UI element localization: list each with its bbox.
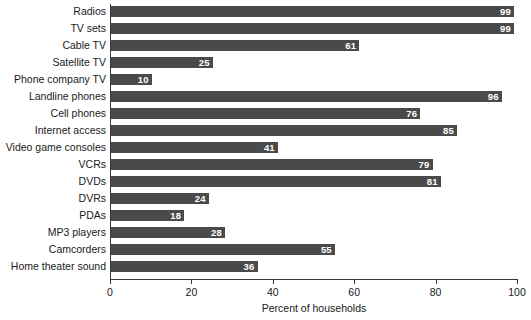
category-label: Landline phones xyxy=(0,89,106,103)
bar-value-label: 28 xyxy=(211,227,222,238)
category-label: Internet access xyxy=(0,123,106,137)
bar: 81 xyxy=(111,176,441,187)
category-label: Phone company TV xyxy=(0,72,106,86)
x-tick-label: 20 xyxy=(186,286,198,298)
bar-track: 36 xyxy=(111,261,518,272)
bar-value-label: 96 xyxy=(488,91,499,102)
bar-track: 79 xyxy=(111,159,518,170)
bar: 99 xyxy=(111,6,514,17)
bar-track: 24 xyxy=(111,193,518,204)
bar-track: 99 xyxy=(111,23,518,34)
bar-value-label: 85 xyxy=(443,125,454,136)
chart-row: VCRs79 xyxy=(0,159,531,170)
bar: 24 xyxy=(111,193,209,204)
bar-value-label: 99 xyxy=(500,23,511,34)
bar-value-label: 10 xyxy=(138,74,149,85)
x-tick-label: 60 xyxy=(348,286,360,298)
chart-row: Cell phones76 xyxy=(0,108,531,119)
bar-track: 28 xyxy=(111,227,518,238)
chart-row: DVDs81 xyxy=(0,176,531,187)
x-tick-label: 100 xyxy=(508,286,526,298)
bar-track: 81 xyxy=(111,176,518,187)
bar-value-label: 24 xyxy=(195,193,206,204)
bar: 61 xyxy=(111,40,359,51)
category-label: Cable TV xyxy=(0,38,106,52)
x-tick xyxy=(191,280,192,284)
bar-value-label: 76 xyxy=(406,108,417,119)
x-tick xyxy=(436,280,437,284)
bar-track: 41 xyxy=(111,142,518,153)
bar-track: 10 xyxy=(111,74,518,85)
y-axis-line xyxy=(110,4,111,280)
category-label: MP3 players xyxy=(0,225,106,239)
bar-value-label: 61 xyxy=(345,40,356,51)
bar: 41 xyxy=(111,142,278,153)
chart-row: Camcorders55 xyxy=(0,244,531,255)
bar-track: 76 xyxy=(111,108,518,119)
x-tick xyxy=(110,280,111,284)
bar-value-label: 18 xyxy=(170,210,181,221)
category-label: Cell phones xyxy=(0,106,106,120)
category-label: TV sets xyxy=(0,21,106,35)
bar-value-label: 25 xyxy=(199,57,210,68)
chart-row: Video game consoles41 xyxy=(0,142,531,153)
x-axis-line xyxy=(110,279,518,280)
bar-chart: Radios99TV sets99Cable TV61Satellite TV2… xyxy=(0,0,531,320)
category-label: Video game consoles xyxy=(0,140,106,154)
bar-value-label: 79 xyxy=(419,159,430,170)
chart-row: DVRs24 xyxy=(0,193,531,204)
category-label: PDAs xyxy=(0,208,106,222)
x-tick-label: 40 xyxy=(267,286,279,298)
bar-track: 25 xyxy=(111,57,518,68)
bar: 85 xyxy=(111,125,457,136)
bar-value-label: 41 xyxy=(264,142,275,153)
category-label: Camcorders xyxy=(0,242,106,256)
category-label: DVRs xyxy=(0,191,106,205)
bar-track: 61 xyxy=(111,40,518,51)
bar: 76 xyxy=(111,108,420,119)
bar: 96 xyxy=(111,91,502,102)
bar: 36 xyxy=(111,261,258,272)
chart-row: Home theater sound36 xyxy=(0,261,531,272)
x-tick xyxy=(354,280,355,284)
category-label: Radios xyxy=(0,4,106,18)
chart-row: PDAs18 xyxy=(0,210,531,221)
bar-track: 18 xyxy=(111,210,518,221)
bar: 10 xyxy=(111,74,152,85)
x-tick xyxy=(273,280,274,284)
chart-row: Landline phones96 xyxy=(0,91,531,102)
category-label: VCRs xyxy=(0,157,106,171)
chart-row: Phone company TV10 xyxy=(0,74,531,85)
x-tick xyxy=(517,280,518,284)
bar-value-label: 55 xyxy=(321,244,332,255)
category-label: DVDs xyxy=(0,174,106,188)
category-label: Home theater sound xyxy=(0,259,106,273)
bar-value-label: 99 xyxy=(500,6,511,17)
bar: 79 xyxy=(111,159,433,170)
bar-value-label: 36 xyxy=(244,261,255,272)
bar: 25 xyxy=(111,57,213,68)
chart-row: MP3 players28 xyxy=(0,227,531,238)
bar-track: 96 xyxy=(111,91,518,102)
bar: 55 xyxy=(111,244,335,255)
x-tick-label: 80 xyxy=(430,286,442,298)
chart-row: Cable TV61 xyxy=(0,40,531,51)
category-label: Satellite TV xyxy=(0,55,106,69)
bar: 18 xyxy=(111,210,184,221)
x-axis-title: Percent of households xyxy=(110,302,518,314)
chart-row: Radios99 xyxy=(0,6,531,17)
bar-track: 55 xyxy=(111,244,518,255)
bar: 28 xyxy=(111,227,225,238)
bar-track: 99 xyxy=(111,6,518,17)
chart-row: Satellite TV25 xyxy=(0,57,531,68)
bar-track: 85 xyxy=(111,125,518,136)
bar-value-label: 81 xyxy=(427,176,438,187)
chart-row: Internet access85 xyxy=(0,125,531,136)
x-tick-label: 0 xyxy=(107,286,113,298)
chart-row: TV sets99 xyxy=(0,23,531,34)
bar: 99 xyxy=(111,23,514,34)
chart-rows: Radios99TV sets99Cable TV61Satellite TV2… xyxy=(0,6,531,278)
